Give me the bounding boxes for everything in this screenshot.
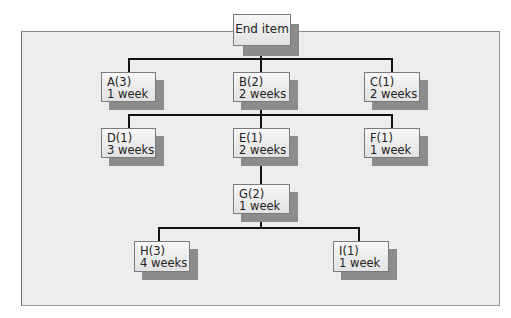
node-f: F(1) 1 week — [364, 128, 420, 158]
connector-to-f — [391, 114, 393, 128]
node-c: C(1) 2 weeks — [364, 72, 420, 102]
connector-to-d — [128, 114, 130, 128]
connector-to-i — [358, 227, 360, 241]
connector-to-h — [158, 227, 160, 241]
node-e: E(1) 2 weeks — [233, 128, 290, 158]
node-lead-time: 3 weeks — [107, 144, 155, 156]
connector-to-c — [391, 58, 393, 72]
node-i: I(1) 1 week — [333, 241, 389, 272]
node-lead-time: 1 week — [370, 144, 419, 156]
node-lead-time: 1 week — [339, 257, 388, 269]
connector-to-b — [260, 58, 262, 72]
node-lead-time: 4 weeks — [140, 257, 189, 269]
node-lead-time: 2 weeks — [239, 88, 289, 100]
node-d: D(1) 3 weeks — [101, 128, 156, 158]
node-end-item: End item — [233, 14, 291, 46]
node-lead-time: 2 weeks — [239, 144, 289, 156]
node-h: H(3) 4 weeks — [134, 241, 190, 272]
node-lead-time: 1 week — [107, 88, 155, 100]
connector-level4-bar — [158, 227, 360, 229]
connector-to-e — [260, 114, 262, 128]
node-b: B(2) 2 weeks — [233, 72, 290, 102]
node-lead-time: 2 weeks — [370, 88, 419, 100]
connector-to-a — [128, 58, 130, 72]
node-a: A(3) 1 week — [101, 72, 156, 102]
node-lead-time: 1 week — [239, 200, 289, 212]
node-g: G(2) 1 week — [233, 184, 290, 214]
node-label: End item — [234, 15, 290, 43]
